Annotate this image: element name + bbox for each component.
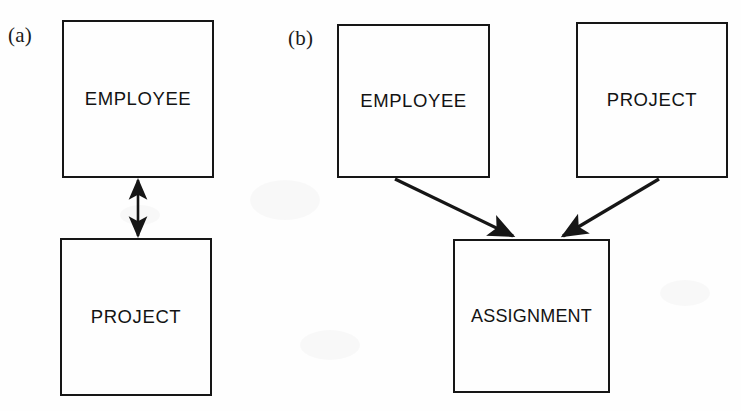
scan-speck: [300, 330, 360, 360]
scan-speck: [120, 205, 160, 225]
entity-box-employee-a[interactable]: EMPLOYEE: [62, 20, 214, 178]
entity-label-project-a: PROJECT: [91, 306, 182, 328]
panel-label-b: (b): [288, 28, 313, 49]
connector-project-to-assignment: [563, 179, 659, 236]
entity-box-employee-b[interactable]: EMPLOYEE: [337, 24, 490, 178]
entity-label-employee-a: EMPLOYEE: [85, 88, 192, 110]
entity-box-project-b[interactable]: PROJECT: [576, 22, 728, 178]
panel-label-a: (a): [8, 25, 32, 46]
entity-label-employee-b: EMPLOYEE: [360, 90, 467, 112]
connector-employee-to-assignment: [395, 179, 513, 236]
entity-label-assignment-b: ASSIGNMENT: [471, 306, 592, 327]
entity-label-project-b: PROJECT: [607, 89, 698, 111]
diagram-canvas: (a) EMPLOYEE PROJECT (b) EMPLOYEE PROJEC…: [0, 0, 741, 411]
entity-box-assignment-b[interactable]: ASSIGNMENT: [453, 239, 610, 393]
scan-speck: [660, 280, 710, 306]
scan-speck: [250, 180, 320, 220]
entity-box-project-a[interactable]: PROJECT: [60, 238, 212, 396]
